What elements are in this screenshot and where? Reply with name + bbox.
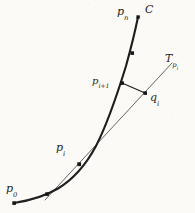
label-qi: qi [150,92,159,103]
label-pi: pi [56,142,65,153]
scan-speckle [88,4,89,5]
label-pn: pn [117,6,128,17]
scan-speckle [172,118,173,119]
label-pi-plus-1: pi+1 [92,76,110,86]
label-p0: p0 [6,183,17,194]
point-marker-unlabeled-lower [45,192,49,196]
segment-pi1-qi [122,83,145,93]
curve-c-scan-artifact [14,149,95,203]
label-curve-c: C [145,4,153,15]
point-marker-unlabeled-upper [130,51,134,55]
diagram-canvas [0,0,195,213]
point-marker-pi [77,162,81,166]
point-marker-qi [143,91,147,95]
point-marker-pn [136,15,139,18]
point-marker-p0 [12,201,16,205]
label-tangent-tpi: Tpi [165,53,178,67]
point-marker-pi-plus-1 [120,81,124,85]
tangent-approximation-figure: p0 pi pi+1 pn C qi Tpi [0,0,195,213]
scan-speckle [30,20,31,21]
curve-c [14,17,138,203]
